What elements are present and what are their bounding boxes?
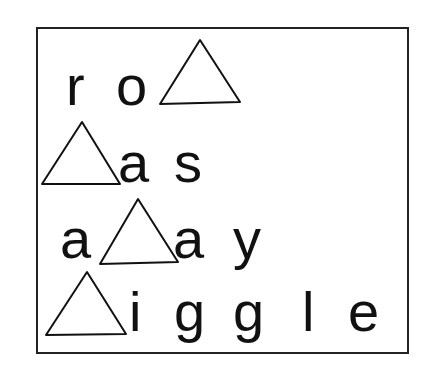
triangles-layer: [0, 0, 426, 366]
row4-triangle-icon: [46, 272, 126, 335]
row2-triangle-icon: [42, 122, 120, 184]
row3-triangle-icon: [100, 199, 178, 264]
row1-triangle-icon: [160, 40, 240, 104]
